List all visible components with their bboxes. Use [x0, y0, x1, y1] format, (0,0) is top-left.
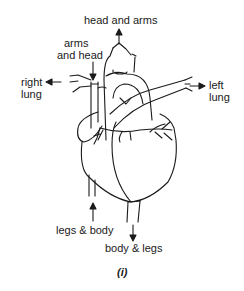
label-right-lung-line2: lung — [21, 89, 42, 100]
figure-caption: (i) — [117, 266, 127, 278]
label-head-and-arms: head and arms — [84, 15, 157, 26]
arrow-head-and-arms — [116, 29, 122, 44]
label-left-lung-line1: left — [209, 80, 224, 91]
label-arms-and-head-line2: and head — [57, 50, 103, 61]
label-arms-and-head-line1: arms — [64, 38, 88, 49]
superior-vena-cava — [70, 75, 106, 128]
heart-body — [81, 114, 176, 202]
arrow-body-and-legs — [130, 225, 136, 241]
label-legs-and-body: legs & body — [56, 225, 113, 236]
label-left-lung-line2: lung — [209, 92, 230, 103]
descending-aorta — [127, 201, 140, 222]
arrow-legs-and-body — [90, 203, 96, 221]
label-body-and-legs: body & legs — [105, 243, 162, 254]
arrow-arms-and-head — [90, 62, 96, 80]
arrow-right-lung — [46, 79, 61, 85]
arrow-left-lung — [190, 83, 205, 89]
label-right-lung-line1: right — [21, 77, 42, 88]
